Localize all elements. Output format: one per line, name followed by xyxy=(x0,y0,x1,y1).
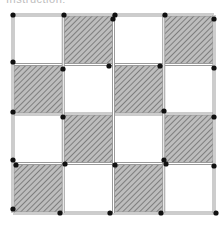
shaded-square xyxy=(114,164,164,214)
vertex-dot xyxy=(10,206,15,211)
shaded-square xyxy=(164,114,214,164)
shaded-square xyxy=(114,65,164,115)
vertex-dot xyxy=(10,59,15,64)
vertex-dot xyxy=(62,161,67,166)
blank-square xyxy=(164,164,214,214)
shaded-square xyxy=(13,65,63,115)
blank-square xyxy=(114,114,164,164)
vertex-dot xyxy=(163,161,168,166)
vertex-dot xyxy=(110,16,115,21)
vertex-dot xyxy=(60,114,65,119)
blank-square xyxy=(63,164,113,214)
vertex-dot xyxy=(10,157,15,162)
vertex-dot xyxy=(10,109,15,114)
vertex-dot xyxy=(106,63,111,68)
vertex-dot xyxy=(213,210,218,215)
vertex-dot xyxy=(161,108,166,113)
vertex-dot xyxy=(60,66,65,71)
vertex-dot xyxy=(107,210,112,215)
vertex-dot xyxy=(157,63,162,68)
vertex-dot xyxy=(61,12,66,17)
checkerboard-diagram xyxy=(0,0,224,226)
blank-square xyxy=(114,15,164,65)
shaded-square xyxy=(63,114,113,164)
blank-square xyxy=(13,114,63,164)
blank-square xyxy=(63,65,113,115)
blank-square xyxy=(164,65,214,115)
vertex-dot xyxy=(57,210,62,215)
vertex-dot xyxy=(13,162,18,167)
vertex-dot xyxy=(211,163,216,168)
vertex-dot xyxy=(211,16,216,21)
vertex-dot xyxy=(162,12,167,17)
shaded-square xyxy=(164,15,214,65)
blank-square xyxy=(13,15,63,65)
vertex-dot xyxy=(112,162,117,167)
shaded-square xyxy=(63,15,113,65)
vertex-dot xyxy=(211,65,216,70)
shaded-square xyxy=(13,164,63,214)
vertex-dot xyxy=(211,114,216,119)
vertex-dot xyxy=(10,12,15,17)
vertex-dot xyxy=(158,210,163,215)
